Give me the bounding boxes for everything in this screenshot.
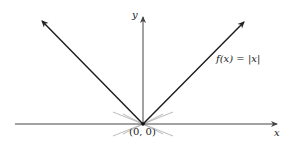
x-axis-label: x <box>274 127 280 138</box>
origin-label: (0, 0) <box>129 126 156 137</box>
function-label: f(x) = |x| <box>216 53 260 64</box>
abs-value-diagram: y x (0, 0) f(x) = |x| <box>0 0 292 148</box>
y-axis-label: y <box>132 9 138 20</box>
graph-right-branch <box>143 22 244 124</box>
graph-left-branch <box>42 21 143 124</box>
